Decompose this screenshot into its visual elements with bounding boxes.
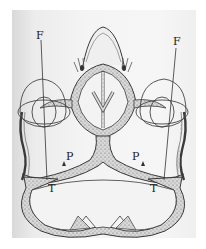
right-p-marker (141, 161, 145, 166)
left-f-line (41, 40, 47, 180)
cross-section-diagram: F F P P T T (0, 0, 206, 249)
label-right-p: P (132, 150, 140, 163)
label-left-f: F (36, 29, 44, 42)
lower-cavity (21, 177, 184, 237)
label-right-f: F (173, 35, 181, 48)
label-left-t: T (48, 182, 56, 195)
label-left-p: P (66, 150, 74, 163)
left-outer-wall (18, 79, 70, 180)
label-right-t: T (150, 182, 158, 195)
central-ring (70, 64, 136, 138)
central-stem (40, 136, 166, 184)
